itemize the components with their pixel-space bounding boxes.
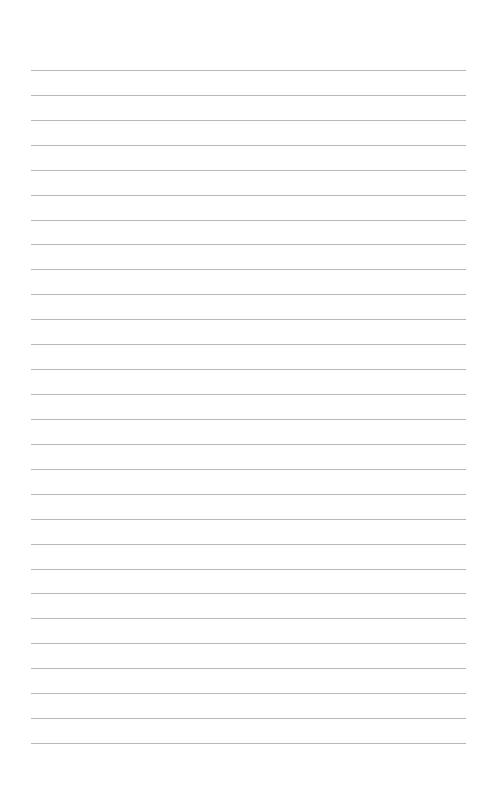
ruled-line [31,593,466,594]
ruled-line [31,544,466,545]
ruled-line [31,244,466,245]
ruled-line [31,70,466,71]
ruled-line [31,344,466,345]
ruled-line [31,569,466,570]
ruled-line [31,618,466,619]
lined-paper-page [0,0,477,800]
ruled-line [31,718,466,719]
ruled-line [31,419,466,420]
ruled-line [31,269,466,270]
ruled-line [31,494,466,495]
ruled-line [31,95,466,96]
ruled-line [31,394,466,395]
ruled-line [31,643,466,644]
ruled-line [31,369,466,370]
ruled-line [31,120,466,121]
ruled-line [31,469,466,470]
ruled-line [31,170,466,171]
ruled-line [31,743,466,744]
ruled-line [31,693,466,694]
ruled-line [31,444,466,445]
ruled-line [31,220,466,221]
ruled-line [31,145,466,146]
ruled-line [31,519,466,520]
ruled-line [31,294,466,295]
ruled-line [31,195,466,196]
ruled-line [31,319,466,320]
ruled-line [31,668,466,669]
